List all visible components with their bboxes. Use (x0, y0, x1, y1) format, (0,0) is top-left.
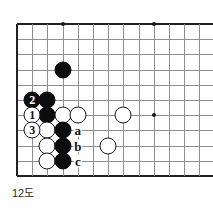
grid-line-vertical (93, 24, 94, 176)
stone-white[interactable] (115, 107, 132, 124)
grid-line-vertical (16, 24, 18, 176)
star-point (152, 22, 156, 26)
point-label-a[interactable]: a (74, 124, 83, 137)
point-label-c[interactable]: c (74, 154, 82, 167)
stone-white-move-3[interactable]: 3 (24, 122, 41, 139)
grid-line-vertical (199, 24, 200, 176)
grid-line-vertical (184, 24, 185, 176)
stone-black[interactable] (54, 61, 71, 78)
stone-white[interactable] (100, 137, 117, 154)
star-point (152, 113, 156, 117)
stone-move-number: 2 (25, 93, 40, 108)
grid-line-vertical (139, 24, 140, 176)
figure-caption: 12도 (12, 184, 34, 200)
grid-line-vertical (154, 24, 155, 176)
go-diagram-figure: 213 abc 12도 (0, 0, 213, 211)
stone-move-number: 3 (25, 123, 40, 138)
stone-move-number: 1 (25, 108, 40, 123)
stone-black[interactable] (54, 152, 71, 169)
grid-line-vertical (169, 24, 170, 176)
point-label-b[interactable]: b (73, 139, 82, 152)
go-board[interactable]: 213 (0, 0, 213, 180)
star-point (61, 22, 65, 26)
grid-line-vertical (123, 24, 124, 176)
stone-white[interactable] (69, 107, 86, 124)
